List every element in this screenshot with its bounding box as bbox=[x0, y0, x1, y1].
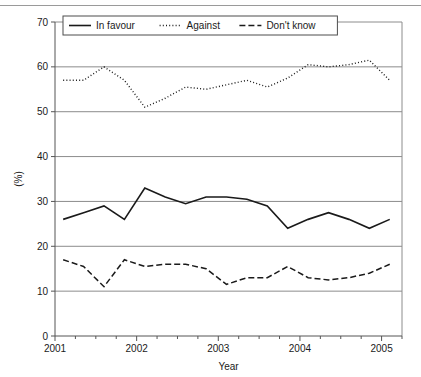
legend-label-against: Against bbox=[187, 20, 221, 31]
y-tick-label-50: 50 bbox=[37, 106, 49, 117]
y-tick-label-70: 70 bbox=[37, 17, 49, 28]
x-tick-label-2005: 2005 bbox=[370, 343, 393, 354]
series-line-don-t-know bbox=[63, 260, 390, 287]
x-axis-label-text: Year bbox=[218, 361, 239, 372]
x-tick-label-2003: 2003 bbox=[207, 343, 230, 354]
y-tick-label-60: 60 bbox=[37, 61, 49, 72]
legend-label-in-favour: In favour bbox=[96, 20, 136, 31]
y-tick-label-30: 30 bbox=[37, 196, 49, 207]
y-tick-label-10: 10 bbox=[37, 286, 49, 297]
x-tick-label-2004: 2004 bbox=[289, 343, 312, 354]
x-tick-label-2001: 2001 bbox=[44, 343, 67, 354]
chart-legend: In favourAgainstDon't know bbox=[63, 16, 337, 35]
legend-label-don-t-know: Don't know bbox=[266, 20, 316, 31]
line-chart: 010203040506070 20012002200320042005 (%)… bbox=[0, 0, 421, 377]
y-tick-label-40: 40 bbox=[37, 151, 49, 162]
x-axis-title: Year bbox=[218, 361, 239, 372]
grid-lines bbox=[55, 67, 402, 291]
x-axis-ticks: 20012002200320042005 bbox=[44, 336, 402, 354]
series-line-in-favour bbox=[63, 188, 390, 228]
y-axis-title: (%) bbox=[13, 171, 24, 187]
y-tick-label-20: 20 bbox=[37, 241, 49, 252]
y-tick-label-0: 0 bbox=[42, 331, 48, 342]
y-axis-label-text: (%) bbox=[13, 171, 24, 187]
y-axis-ticks: 010203040506070 bbox=[37, 17, 55, 342]
data-series-group bbox=[63, 60, 390, 287]
chart-page: 010203040506070 20012002200320042005 (%)… bbox=[0, 0, 421, 377]
x-tick-label-2002: 2002 bbox=[126, 343, 149, 354]
